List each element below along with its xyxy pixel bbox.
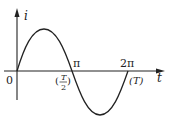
origin-label: 0 bbox=[6, 74, 13, 87]
tick-2pi-sub: (T) bbox=[129, 75, 144, 86]
paren-open: ( bbox=[55, 75, 59, 86]
tick-2pi-label: 2π bbox=[120, 57, 134, 70]
paren-close: ) bbox=[67, 75, 71, 86]
tick-pi-sub-den: 2 bbox=[61, 83, 66, 92]
tick-pi-label: π bbox=[73, 57, 80, 70]
y-axis-label: i bbox=[24, 9, 28, 23]
x-axis-label: t bbox=[157, 71, 162, 85]
sine-curve bbox=[17, 29, 128, 115]
y-axis-arrow-icon bbox=[15, 8, 20, 17]
sine-diagram: i t 0 π ( T 2 ) 2π (T) bbox=[0, 0, 169, 126]
